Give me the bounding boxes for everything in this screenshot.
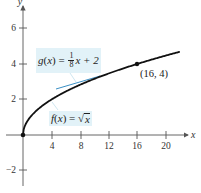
y-tick-label: 4 (11, 59, 16, 69)
x-axis-label: x (190, 129, 196, 140)
g-rest: x + 2 (75, 55, 98, 66)
y-axis-label: y (17, 0, 23, 7)
origin-point (21, 133, 26, 138)
f-name: f (51, 113, 54, 124)
g-function-label: g(x) = 1 8 x + 2 (36, 48, 101, 73)
x-tick-label: 12 (104, 141, 114, 151)
x-tick-label: 4 (50, 141, 55, 151)
y-tick-label: 2 (11, 94, 16, 104)
g-name: g (38, 55, 44, 66)
fraction-denominator: 8 (69, 61, 73, 69)
x-tick-label: 16 (132, 141, 142, 151)
y-tick-label: −2 (6, 165, 16, 175)
tangent-line-g (56, 76, 100, 89)
function-graph: 4 8 12 16 20 x 6 4 2 −2 y (0, 0, 201, 193)
f-var: x (58, 113, 63, 124)
f-function-label: f(x) = √x (49, 111, 92, 126)
tangency-point-label: (16, 4) (140, 68, 168, 79)
tangency-point (135, 62, 139, 66)
g-var: x (47, 55, 52, 66)
g-label-pointer (70, 73, 76, 82)
fraction: 1 8 (68, 52, 74, 69)
radicand: x (84, 113, 90, 125)
x-tick-label: 20 (161, 141, 171, 151)
f-label-pointer (52, 102, 58, 110)
y-tick-label: 6 (11, 23, 16, 33)
x-tick-label: 8 (79, 141, 84, 151)
